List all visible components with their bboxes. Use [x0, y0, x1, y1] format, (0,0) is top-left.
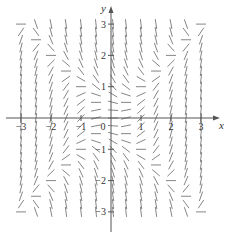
slope-segment [154, 106, 158, 115]
slope-segment [184, 207, 187, 216]
slope-segment [108, 125, 118, 126]
slope-segment [34, 207, 37, 216]
slope-segment [76, 92, 85, 96]
slope-segment [18, 200, 24, 208]
slope-segment [64, 129, 68, 138]
slope-segment [62, 170, 70, 176]
slope-segment [167, 169, 174, 176]
slope-segment [33, 28, 39, 36]
slope-segment [49, 67, 54, 76]
slope-segment [121, 140, 131, 143]
slope-segment [154, 176, 159, 185]
slope-segment [64, 51, 69, 60]
tick-labels: −3−2−10123−3−2−1123xy [16, 2, 224, 217]
slope-segment [109, 139, 118, 144]
slope-segment [122, 146, 130, 152]
slope-segment [121, 93, 131, 96]
slope-segment [34, 19, 37, 28]
slope-segment [170, 19, 172, 29]
slope-segment [93, 75, 99, 83]
slope-segment [33, 200, 39, 208]
slope-segment [64, 137, 69, 146]
slope-segment [123, 75, 129, 83]
slope-segment [33, 185, 39, 193]
x-tick-label: 2 [169, 121, 174, 132]
slope-segment [91, 109, 101, 111]
x-tick-label: 3 [199, 121, 204, 132]
slope-segment [108, 101, 118, 104]
slope-segment [152, 60, 160, 66]
slope-segment [108, 110, 118, 111]
slope-segment [62, 154, 70, 160]
slope-segment [50, 19, 52, 29]
slope-segment [138, 67, 144, 75]
y-tick-label: 3 [101, 19, 106, 30]
slope-segment [154, 51, 159, 60]
x-axis-label: x [218, 119, 224, 131]
slope-segment [63, 145, 69, 153]
slope-segment [169, 161, 174, 170]
slope-segment [152, 76, 160, 82]
slope-segment [48, 44, 55, 51]
slope-segment [167, 60, 174, 67]
slope-segment [78, 161, 84, 169]
slope-segment [48, 185, 55, 192]
slope-segment [64, 98, 68, 107]
slope-segment [63, 83, 69, 91]
slope-segment [50, 207, 52, 217]
slope-segment [183, 28, 189, 36]
slope-segment [183, 200, 189, 208]
x-tick-label: 0 [101, 121, 106, 132]
slope-segment [64, 106, 68, 115]
slope-segment [137, 107, 144, 114]
slope-segment [170, 207, 172, 217]
slope-segment [183, 185, 189, 193]
slope-segment [136, 139, 145, 143]
slope-segment [78, 67, 84, 75]
slope-segment [77, 107, 84, 114]
slope-segment [169, 67, 174, 76]
slope-segment [198, 200, 204, 208]
slope-segment [77, 99, 85, 105]
slope-segment [136, 92, 145, 96]
slope-segment [154, 137, 159, 146]
x-tick-label: −3 [16, 121, 27, 132]
slope-segment [154, 90, 159, 99]
slope-segment [108, 132, 118, 135]
slope-segment [76, 139, 85, 143]
slope-segment [183, 44, 189, 52]
slope-segment [77, 76, 86, 81]
y-tick-label: 2 [101, 50, 106, 61]
slope-segment [138, 161, 144, 169]
slope-segment [168, 44, 175, 51]
y-tick-label: −2 [95, 175, 106, 186]
slope-segment [47, 60, 54, 67]
slope-segment [184, 19, 187, 28]
x-tick-label: −2 [46, 121, 57, 132]
y-axis-arrow-icon [109, 6, 114, 13]
slope-segment [62, 60, 70, 66]
slope-segment [122, 84, 130, 90]
slope-segment [49, 161, 54, 170]
y-tick-label: −1 [95, 144, 106, 155]
slope-segment [152, 154, 160, 160]
slope-segment [92, 84, 100, 90]
slope-segment [64, 176, 69, 185]
slope-segment [152, 170, 160, 176]
slope-segment [121, 109, 131, 111]
slope-segment [153, 145, 159, 153]
slope-segment [154, 98, 158, 107]
slope-segment [154, 121, 158, 130]
slope-field-chart: −3−2−10123−3−2−1123xy [0, 0, 226, 232]
y-tick-label: −3 [95, 206, 106, 217]
slope-segment [18, 28, 24, 36]
slope-segment [123, 153, 129, 161]
slope-segment [64, 121, 68, 130]
slope-segment [62, 76, 70, 82]
slope-segment [77, 155, 86, 160]
slope-segment [137, 99, 145, 105]
slope-segment [91, 140, 101, 143]
slope-segment [64, 90, 69, 99]
slope-segment [121, 125, 131, 127]
slope-segment [153, 83, 159, 91]
